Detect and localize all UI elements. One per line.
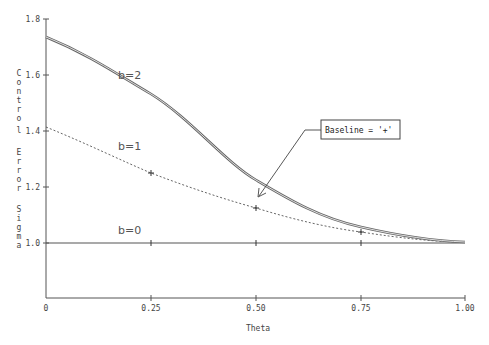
svg-text:m: m [17, 232, 22, 241]
svg-text:t: t [17, 96, 22, 105]
y-tick-1-2: 1.2 [26, 183, 41, 192]
x-tick-1-00: 1.00 [455, 304, 474, 313]
callout-text: Baseline = '+' [325, 126, 392, 135]
svg-text:E: E [17, 148, 22, 157]
y-tick-1-0: 1.0 [26, 239, 41, 248]
x-tick-0-75: 0.75 [351, 304, 370, 313]
x-tick-0-25: 0.25 [141, 304, 160, 313]
x-tick-0-50: 0.50 [246, 304, 265, 313]
svg-text:n: n [17, 87, 22, 96]
y-tick-1-8: 1.8 [26, 15, 41, 24]
svg-text:o: o [17, 175, 22, 184]
x-tick-0: 0 [44, 304, 49, 313]
svg-text:a: a [17, 241, 22, 250]
svg-text:r: r [17, 157, 22, 166]
series-b1 [46, 127, 465, 242]
label-b2: b=2 [118, 69, 141, 82]
svg-text:l: l [17, 126, 22, 135]
x-axis-title: Theta [246, 324, 270, 333]
svg-text:r: r [17, 184, 22, 193]
y-tick-1-4: 1.4 [26, 127, 41, 136]
svg-text:o: o [17, 114, 22, 123]
svg-text:C: C [17, 69, 22, 78]
svg-text:S: S [17, 205, 22, 214]
x-tick-labels: 0 0.25 0.50 0.75 1.00 [44, 304, 475, 313]
svg-text:r: r [17, 166, 22, 175]
svg-text:g: g [17, 223, 22, 232]
y-tick-labels: 1.8 1.6 1.4 1.2 1.0 [26, 15, 41, 248]
baseline-callout: Baseline = '+' [258, 120, 400, 197]
y-axis-title: C o n t r o l E r r o r S i g m a [17, 69, 22, 250]
axes [43, 19, 465, 301]
y-tick-1-6: 1.6 [26, 71, 41, 80]
label-b0: b=0 [118, 224, 141, 237]
chart-canvas: 1.8 1.6 1.4 1.2 1.0 0 0.25 0.50 0.75 1.0… [0, 0, 489, 345]
svg-text:r: r [17, 105, 22, 114]
series-b2 [46, 37, 465, 242]
label-b1: b=1 [118, 140, 141, 153]
svg-text:o: o [17, 78, 22, 87]
svg-text:i: i [17, 214, 22, 223]
